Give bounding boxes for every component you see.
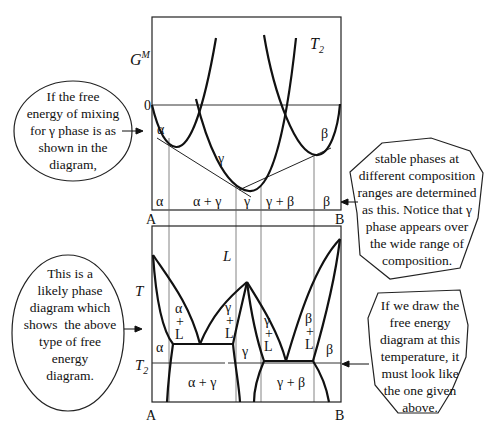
note-line: as this. Notice that γ [352, 201, 482, 218]
region-label-gamma-beta: γ + β [265, 194, 294, 209]
region-label-alpha: α [156, 194, 164, 209]
note-line: diagram, [19, 156, 127, 173]
temperature-axis-label: T [135, 283, 145, 299]
beta-curve-label: β [321, 126, 328, 141]
top-left-note: If the free energy of mixing for γ phase… [19, 88, 127, 173]
gamma-region-label: γ [241, 344, 248, 359]
note-line: energy [20, 350, 120, 367]
bottom-axis-b: B [335, 408, 344, 423]
beta-free-energy-curve [264, 35, 340, 155]
gamma-left-solvus [233, 344, 240, 402]
beta-solvus [313, 361, 329, 402]
note-line: ranges are determined [352, 184, 482, 201]
note-line: the one given [370, 382, 470, 399]
note-line: phase appears over [352, 218, 482, 235]
alpha-gamma-region-label: α + γ [188, 375, 216, 390]
region-label-alpha-gamma: α + γ [193, 194, 221, 209]
gamma-right-solvus [254, 361, 264, 402]
note-line: shows the above [20, 316, 120, 333]
gamma-beta-region-label: γ + β [276, 375, 305, 390]
note-line: If we draw the [370, 297, 470, 314]
note-line: composition. [352, 252, 482, 269]
bottom-left-note: This is a likely phase diagram which sho… [20, 265, 120, 384]
svg-text:L: L [264, 339, 273, 354]
note-line: must look like [370, 365, 470, 382]
t2-label-top: T2 [310, 35, 324, 55]
note-line: diagram. [20, 367, 120, 384]
gamma-plus-liquid-label-right: γ + L [263, 313, 273, 354]
gm-axis-label: GM [130, 49, 151, 68]
composition-guide-lines [169, 138, 314, 402]
zero-label: 0 [144, 98, 151, 113]
liquid-label: L [222, 248, 231, 264]
note-line: energy of mixing [19, 105, 127, 122]
gamma-plus-liquid-label-left: γ + L [224, 300, 234, 341]
phase-diagram-plot: L T T2 α + L γ + L γ + L β + L α γ β α +… [135, 226, 344, 423]
note-line: diagram at this [370, 331, 470, 348]
region-label-gamma: γ [243, 194, 250, 209]
alpha-plus-liquid-label: α + L [175, 301, 184, 342]
beta-plus-liquid-label: β + L [305, 311, 314, 352]
gamma-curve-label: γ [217, 151, 224, 166]
note-line: free energy [370, 314, 470, 331]
top-right-note: stable phases at different composition r… [352, 150, 482, 269]
svg-text:L: L [225, 326, 234, 341]
note-line: different composition [352, 167, 482, 184]
note-line: If the free [19, 88, 127, 105]
note-line: likely phase [20, 282, 120, 299]
note-line: type of free [20, 333, 120, 350]
region-label-beta: β [323, 194, 330, 209]
note-line: diagram which [20, 299, 120, 316]
alpha-region-label: α [156, 340, 164, 355]
alpha-curve-label: α [157, 122, 165, 137]
top-axis-b: B [335, 212, 344, 227]
note-line: above. [370, 399, 470, 416]
t2-label-bottom: T2 [135, 357, 148, 376]
note-line: This is a [20, 265, 120, 282]
svg-text:L: L [305, 337, 314, 352]
bottom-axis-a: A [146, 408, 157, 423]
note-line: shown in the [19, 139, 127, 156]
svg-text:L: L [175, 327, 184, 342]
alpha-solvus [167, 344, 173, 402]
top-axis-a: A [146, 212, 157, 227]
note-line: for γ phase is as [19, 122, 127, 139]
note-line: the wide range of [352, 235, 482, 252]
note-line: stable phases at [352, 150, 482, 167]
common-tangent-lines [157, 138, 331, 197]
bottom-right-note: If we draw the free energy diagram at th… [370, 297, 470, 416]
note-line: temperature, it [370, 348, 470, 365]
beta-region-label: β [326, 342, 333, 357]
